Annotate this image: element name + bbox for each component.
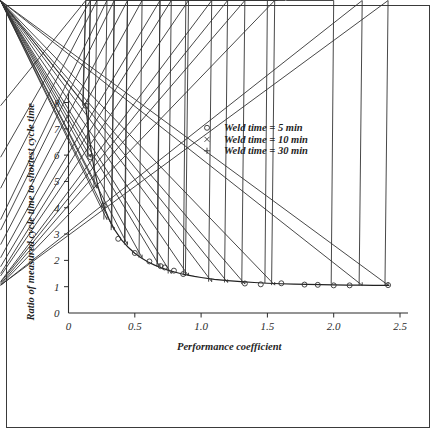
y-tick-label-4: 4 xyxy=(54,202,60,214)
marker-plus-6 xyxy=(1,1,143,258)
x-tick-label-2.5: 2.5 xyxy=(393,320,407,332)
x-axis-title: Performance coefficient xyxy=(177,341,283,352)
marker-plus-15 xyxy=(1,1,389,286)
x-tick-label-0: 0 xyxy=(66,320,72,332)
marker-plus-1 xyxy=(1,1,91,158)
x-tick-label-0.5: 0.5 xyxy=(128,320,142,332)
y-tick-label-1: 1 xyxy=(54,281,60,293)
y-tick-label-6: 6 xyxy=(54,149,60,161)
legend-label-2: Weld time = 30 min xyxy=(224,145,308,156)
x-tick-label-1.0: 1.0 xyxy=(194,320,208,332)
y-tick-label-3: 3 xyxy=(53,228,60,240)
legend-label-0: Weld time = 5 min xyxy=(224,122,303,133)
figure-container: 01234567800.51.01.52.02.5Performance coe… xyxy=(0,0,446,444)
series-plus xyxy=(1,1,389,286)
legend-marker-circle xyxy=(205,125,210,130)
y-tick-label-5: 5 xyxy=(54,175,60,187)
legend-label-1: Weld time = 10 min xyxy=(224,134,308,145)
legend-marker-plus xyxy=(204,148,210,154)
y-tick-label-0: 0 xyxy=(54,307,60,319)
chart-legend: Weld time = 5 minWeld time = 10 minWeld … xyxy=(204,122,308,156)
y-axis-title: Ratio of measured cycle time to shortest… xyxy=(25,103,36,322)
data-markers xyxy=(1,1,391,288)
legend-marker-cross xyxy=(205,137,210,142)
chart-canvas: 01234567800.51.01.52.02.5Performance coe… xyxy=(0,0,446,444)
marker-circle-3 xyxy=(116,236,121,241)
y-tick-label-7: 7 xyxy=(54,123,60,135)
x-tick-label-2.0: 2.0 xyxy=(327,320,341,332)
marker-circle-8 xyxy=(171,268,176,273)
y-tick-label-8: 8 xyxy=(54,97,60,109)
x-tick-label-1.5: 1.5 xyxy=(261,320,275,332)
y-tick-label-2: 2 xyxy=(54,254,60,266)
